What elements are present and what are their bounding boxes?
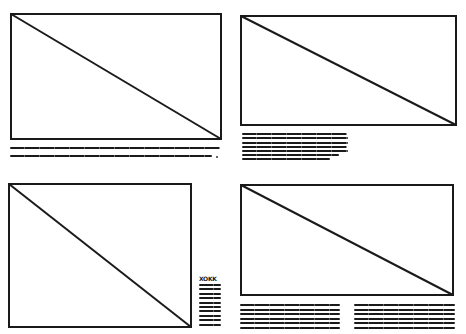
caption-line xyxy=(10,155,212,157)
caption-line xyxy=(242,137,348,139)
legend-line xyxy=(199,288,221,290)
caption-line xyxy=(240,313,340,315)
legend-line xyxy=(199,319,221,321)
legend-line xyxy=(199,310,221,312)
caption-line xyxy=(242,133,347,135)
legend-line xyxy=(199,302,221,304)
legend-line xyxy=(199,315,221,317)
panel-frame-top-left xyxy=(10,13,222,140)
panel-frame-top-right xyxy=(240,15,457,126)
caption-line xyxy=(242,150,348,152)
legend-line xyxy=(199,297,221,299)
caption-line xyxy=(240,309,340,311)
caption-line xyxy=(242,154,339,156)
legend-header: XOKK xyxy=(199,276,217,282)
legend-line xyxy=(199,306,221,308)
legend-line xyxy=(199,284,221,286)
diagonal-line xyxy=(8,183,192,328)
caption-line xyxy=(354,309,455,311)
diagonal-line xyxy=(240,184,454,296)
diagonal-line xyxy=(240,15,457,126)
caption-line xyxy=(242,146,347,148)
caption-line xyxy=(354,318,455,320)
legend-line xyxy=(199,324,221,326)
caption-line xyxy=(240,304,340,306)
caption-line xyxy=(242,158,330,160)
caption-line xyxy=(354,304,455,306)
caption-line xyxy=(354,313,455,315)
caption-line xyxy=(240,318,340,320)
caption-line xyxy=(10,147,220,149)
caption-line xyxy=(240,322,340,324)
panel-frame-bottom-left xyxy=(8,183,192,328)
panel-frame-bottom-right xyxy=(240,184,454,296)
caption-line xyxy=(354,327,455,329)
legend-line xyxy=(199,293,221,295)
caption-line xyxy=(242,142,348,144)
caption-line xyxy=(240,327,340,329)
diagonal-line xyxy=(10,13,222,140)
caption-line xyxy=(354,322,455,324)
caption-period xyxy=(216,156,218,158)
